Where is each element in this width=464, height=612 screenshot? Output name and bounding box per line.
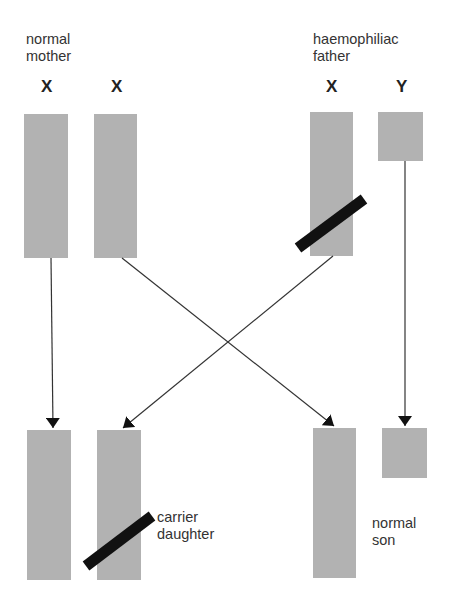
daughter-label-line2: daughter bbox=[157, 526, 214, 543]
arrow-mother-x1-to-daughter bbox=[51, 258, 53, 428]
daughter-label: carrier daughter bbox=[157, 509, 214, 543]
son-label-line2: son bbox=[372, 532, 416, 549]
daughter-label-line1: carrier bbox=[157, 509, 214, 526]
son-label-line1: normal bbox=[372, 515, 416, 532]
haemophilia-gene-band-father bbox=[298, 199, 364, 248]
haemophilia-gene-band-daughter bbox=[86, 516, 152, 566]
arrow-father-x-to-daughter bbox=[123, 256, 333, 428]
son-label: normal son bbox=[372, 515, 416, 549]
